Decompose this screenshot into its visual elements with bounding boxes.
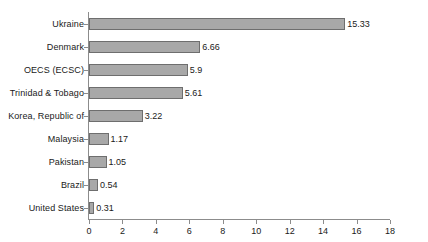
- bar-value-label: 1.17: [109, 134, 129, 144]
- bar-value-label: 6.66: [200, 42, 220, 52]
- bar-row: Pakistan1.05: [0, 150, 428, 173]
- x-axis-tick-label: 16: [352, 226, 362, 236]
- category-label: Pakistan: [49, 157, 84, 167]
- y-axis-tick: [84, 47, 88, 48]
- bar-row: Brazil0.54: [0, 173, 428, 196]
- bar: [89, 64, 188, 76]
- bar-row: Denmark6.66: [0, 35, 428, 58]
- x-axis-tick: [89, 220, 90, 224]
- x-axis-tick-label: 18: [385, 226, 395, 236]
- category-label: Korea, Republic of: [8, 111, 84, 121]
- category-label: OECS (ECSC): [24, 65, 84, 75]
- bar-value-label: 1.05: [107, 157, 127, 167]
- category-label: United States: [29, 203, 84, 213]
- x-axis-tick-label: 12: [285, 226, 295, 236]
- x-axis-tick: [223, 220, 224, 224]
- bar-row: Malaysia1.17: [0, 127, 428, 150]
- bar: [89, 87, 183, 99]
- x-axis-tick-label: 14: [318, 226, 328, 236]
- bar-row: OECS (ECSC)5.9: [0, 58, 428, 81]
- bar-row: Ukraine15.33: [0, 12, 428, 35]
- x-axis-tick: [156, 220, 157, 224]
- y-axis-tick: [84, 93, 88, 94]
- bar-chart: Ukraine15.33Denmark6.66OECS (ECSC)5.9Tri…: [0, 0, 428, 242]
- y-axis-tick: [84, 24, 88, 25]
- bar-value-label: 15.33: [345, 19, 370, 29]
- y-axis-tick: [84, 116, 88, 117]
- x-axis-tick-label: 8: [220, 226, 225, 236]
- bar-row: Korea, Republic of3.22: [0, 104, 428, 127]
- y-axis-tick: [84, 139, 88, 140]
- x-axis-tick: [256, 220, 257, 224]
- x-axis-tick-label: 4: [153, 226, 158, 236]
- bar: [89, 18, 345, 30]
- bar-row: Trinidad & Tobago5.61: [0, 81, 428, 104]
- bar: [89, 179, 98, 191]
- bar-value-label: 0.54: [98, 180, 118, 190]
- x-axis-tick: [357, 220, 358, 224]
- bar: [89, 110, 143, 122]
- category-label: Ukraine: [52, 19, 84, 29]
- x-axis-line: [88, 219, 390, 220]
- x-axis-tick-label: 6: [187, 226, 192, 236]
- category-label: Denmark: [47, 42, 84, 52]
- bar-value-label: 5.61: [183, 88, 203, 98]
- category-label: Trinidad & Tobago: [10, 88, 84, 98]
- y-axis-tick: [84, 208, 88, 209]
- bar-value-label: 0.31: [94, 203, 114, 213]
- y-axis-tick: [84, 70, 88, 71]
- x-axis-tick-label: 0: [86, 226, 91, 236]
- x-axis-tick: [122, 220, 123, 224]
- x-axis-tick: [323, 220, 324, 224]
- category-label: Brazil: [61, 180, 84, 190]
- plot-area: Ukraine15.33Denmark6.66OECS (ECSC)5.9Tri…: [0, 0, 428, 242]
- x-axis-tick: [390, 220, 391, 224]
- x-axis-tick: [189, 220, 190, 224]
- y-axis-tick: [84, 185, 88, 186]
- bar-value-label: 3.22: [143, 111, 163, 121]
- bar: [89, 41, 200, 53]
- x-axis-tick-label: 10: [251, 226, 261, 236]
- x-axis-tick: [290, 220, 291, 224]
- bar: [89, 133, 109, 145]
- bar-value-label: 5.9: [188, 65, 203, 75]
- y-axis-tick: [84, 162, 88, 163]
- category-label: Malaysia: [48, 134, 84, 144]
- x-axis-tick-label: 2: [120, 226, 125, 236]
- bar-row: United States0.31: [0, 196, 428, 219]
- bar: [89, 156, 107, 168]
